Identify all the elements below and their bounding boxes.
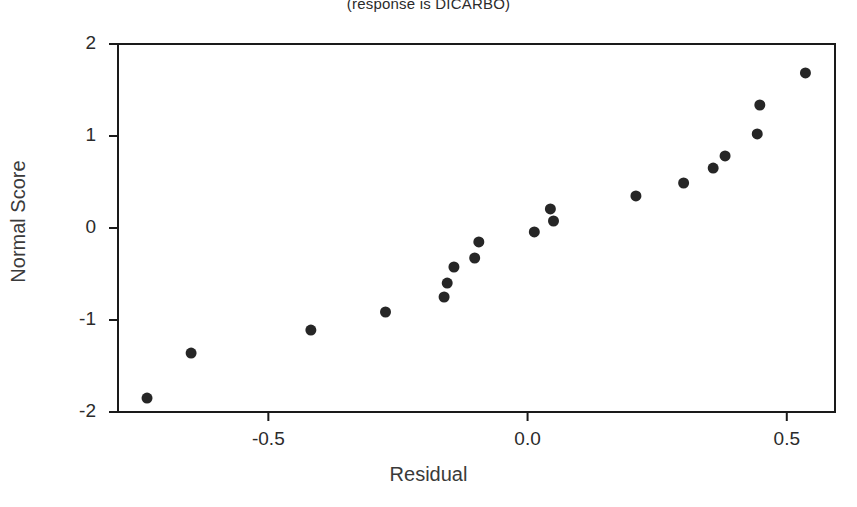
y-tick-label: 2 [56,32,96,54]
data-point [800,67,811,78]
data-point [448,262,459,273]
y-tick-label: 1 [56,124,96,146]
data-point [548,216,559,227]
plot-area [0,0,857,507]
data-point [752,128,763,139]
data-point [186,348,197,359]
data-point [754,99,765,110]
normal-probability-plot: (response is DICARBO) Normal Score Resid… [0,0,857,507]
x-tick-label: -0.5 [233,428,303,450]
y-tick-label: -1 [56,308,96,330]
data-point [473,236,484,247]
data-point [529,226,540,237]
y-tick-label: 0 [56,216,96,238]
data-point [545,203,556,214]
axes-frame [118,44,835,412]
data-point [442,278,453,289]
data-point [142,393,153,404]
data-point [305,325,316,336]
data-point [708,163,719,174]
data-point [678,178,689,189]
data-point [439,292,450,303]
data-point [630,190,641,201]
y-tick-label: -2 [56,400,96,422]
data-point [720,150,731,161]
data-point [469,252,480,263]
x-tick-label: 0.5 [752,428,822,450]
data-point [380,306,391,317]
x-tick-label: 0.0 [493,428,563,450]
